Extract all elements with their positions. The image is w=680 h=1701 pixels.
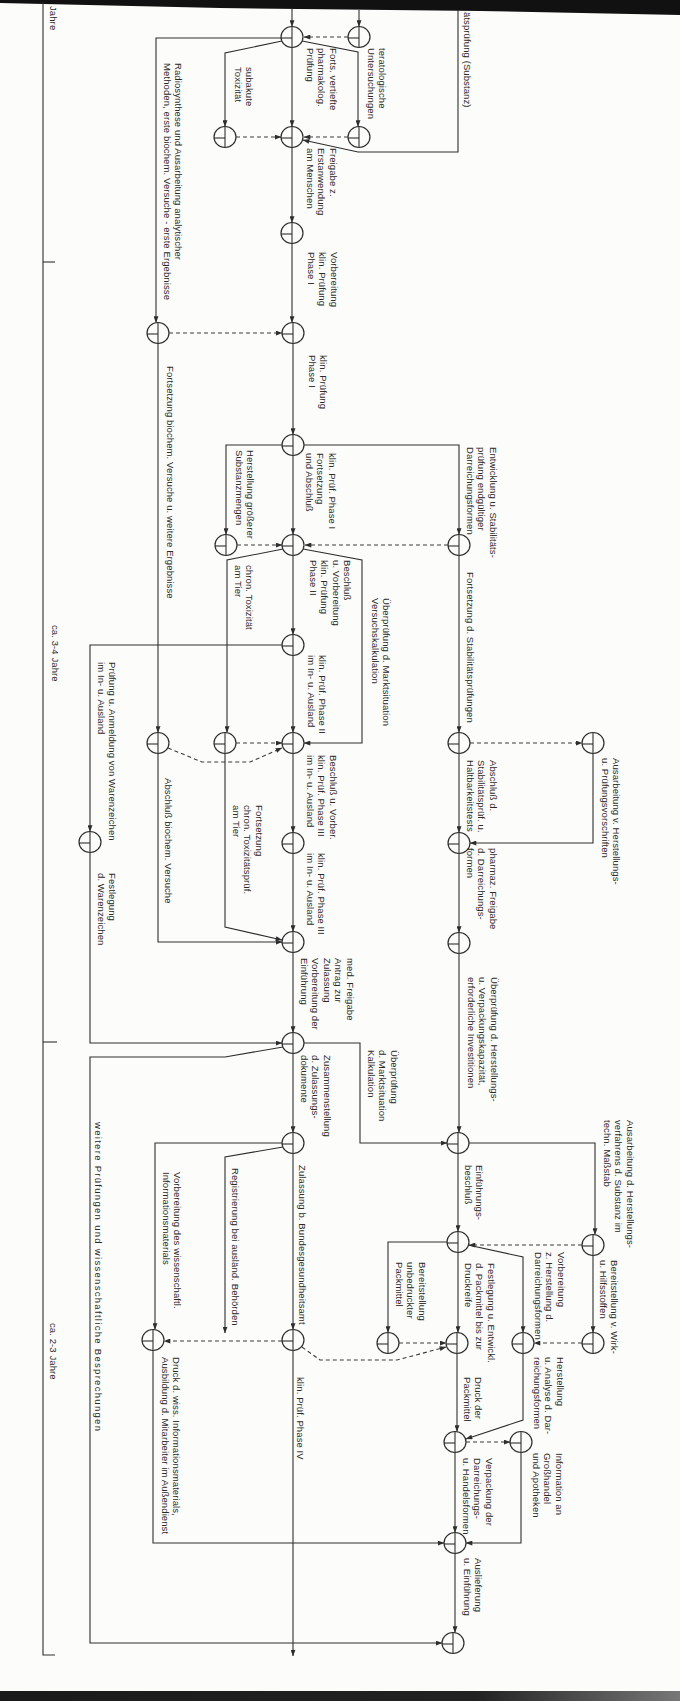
activity-label-unbedruckte-packmittel: Bereitstellung unbedruckter Packmittel [393,1262,428,1321]
activity-label-herstellungskapazitaet: Überprüfung d. Herstellungs- u. Verpacku… [465,977,500,1102]
activity-label-verpackung: Verpackung der Darreichungs- u. Handelsf… [460,1458,495,1535]
event-node [282,635,304,656]
event-node [281,27,303,48]
activity-label-radiosynthese: Radiosynthese und Ausarbeitung analytisc… [161,63,184,300]
activity-label-abschluss-stabilitaet: Abschluß d. Stabilitätsprüf. u. Haltbark… [464,760,499,833]
activity-label-marktsituation-versuchskalkulation: Überprüfung d. Marktsituation Versuchska… [369,598,392,726]
activity-label-beschluss-phase-3: Beschluß u. Vorber. klin. Prüf. Phase II… [304,755,339,840]
activity-label-phase-2: klin. Prüf. Phase II im In- u. Ausland [305,655,328,734]
event-node [282,435,304,456]
event-node [282,733,304,754]
activity-label-fortsetzung-biochem: Fortsetzung biochem. Versuche u. weitere… [164,366,176,599]
activity-label-analyse-darreichungsformen: Herstellung u. Analyse d. Dar- reichungs… [531,1357,566,1434]
activity-label-med-freigabe: med. Freigabe Antrag zur Zulassung Vorbe… [298,958,356,1030]
scan-edge-bottom [0,1691,680,1701]
activity-label-phase-1-abschluss: klin. Prüf. Phase I Fortsetzung und Absc… [303,453,338,529]
event-node [282,323,304,344]
activity-label-freigabe-erstanwendung: Freigabe z. Erstanwendung am Menschen [304,148,339,215]
event-node [377,1333,399,1354]
event-node [214,127,236,148]
scan-edge-top [0,0,680,15]
activity-label-pharmaz-freigabe: pharmaz. Freigabe d. Darreichungs- forme… [464,848,499,929]
activity-label-subakute-toxizitaet: subakute Toxizität [232,67,255,106]
activity-label-teratologische-untersuchungen: teratologische Untersuchungen [365,48,388,119]
activity-label-zulassung-bga: Zulassung b. Bundesgesundheitsamt [296,1165,308,1325]
activity-label-phase-3: klin. Prüf. Phase III im In- u. Ausland [304,853,327,935]
activity-label-packmittel-druckreife: Festlegung u. Entwickl. d. Packmittel bi… [462,1263,497,1363]
activity-label-pharmakolog-pruefung: Forts. vertiefte pharmakolog. Prüfung [304,48,339,110]
event-node [147,323,169,344]
activity-label-chron-toxizitaet: chron. Toxizität am Tier [232,565,255,630]
activity-label-anmeldung-warenzeichen: Prüfung u. Anmeldung von Warenzeichen im… [95,662,118,841]
activity-arrow [90,645,282,832]
activity-label-stabilitaetspruefung-substanz: ätsprüfung (Substanz) [461,12,473,108]
activity-label-klin-pruefung-phase-1: klin. Prüfung Phase I [306,355,329,409]
event-node [448,733,470,754]
event-node [281,127,303,148]
activity-label-einfuehrungsbeschluss: Einführungs- beschluß [462,1165,485,1220]
activity-label-druck-packmittel: Druck der Packmittel [461,1377,484,1422]
event-node [510,1432,532,1453]
event-node [444,1533,466,1554]
activity-label-beschluss-phase-2: Beschluß u. Vorbereitung klin. Prüfung P… [307,560,353,626]
event-node [282,535,304,556]
activity-label-herstellung-substanzmengen: Herstellung größerer Substanzmengen [233,450,256,539]
event-node [448,933,470,954]
dummy-arrow [302,1347,446,1360]
event-node [282,932,304,953]
event-node [582,733,604,754]
activity-arrow [469,1143,595,1235]
activity-label-vorbereitung-phase-1: Vorbereitung klin. Prüfung Phase I [305,252,340,307]
event-node [348,127,370,148]
event-node [214,733,236,754]
activity-label-wirk-hilfsstoffe: Bereitstellung v. Wirk- u. Hilfsstoffen [597,1260,620,1354]
event-node [282,1033,304,1054]
activity-label-pruefungsvorschriften: Ausarbeitung v. Herstellungs- u. Prüfung… [599,758,622,885]
activity-label-information-grosshandel: Information an Großhandel und Apotheken [530,1453,565,1518]
event-node [442,1633,464,1654]
activity-label-marktsituation-kalkulation: Überprüfung d. Marktsituation Kalkulatio… [365,1050,400,1121]
axis-period-label-2: ca. 2-3 Jahre [47,1323,59,1380]
activity-label-phase-4: klin. Prüf. Phase IV [294,1377,306,1460]
network-plan-page: Jahre ca. 3-4 Jahre ca. 2-3 Jahre ätsprü… [0,0,680,1701]
activity-label-druck-informationsmaterial: Druck d. wiss. Informationsmaterials, Au… [159,1357,182,1534]
event-node [142,1330,164,1351]
event-node [512,1333,534,1354]
activity-label-informationsmaterial: Vorbereitung des wissenschaftl. Informat… [160,1172,183,1309]
axis-period-label-1: ca. 3-4 Jahre [49,625,61,682]
activity-label-zulassungsdokumente: Zusammenstellung d. Zulassungs- dokument… [298,1055,333,1137]
event-node [447,1232,469,1253]
activity-label-fortsetzung-toxizitaet: Fortsetzung chron. Toxizitätsprüf. am Ti… [230,805,265,894]
activity-label-herstellungsverfahren: Ausarbeitung d. Herstellungs- verfahrens… [601,1120,636,1248]
event-node [147,733,169,754]
activity-label-fortsetzung-stabilitaet: Fortsetzung d. Stabilitätsprüfungen [464,572,476,723]
event-node [282,833,304,854]
event-node [447,1133,469,1154]
axis-unit-label: Jahre [47,6,59,30]
event-node [348,27,370,48]
activity-label-abschluss-biochem: Abschluß biochem. Versuche [162,778,174,904]
activity-label-auslieferung: Auslieferung u. Einführung [461,1558,484,1616]
network-diagram [0,0,680,1701]
activity-label-vorbereitung-darreichungsformen: Vorbereitung z. Herstellung d. Darreichu… [532,1252,567,1340]
activity-label-registrierung: Registrierung bei ausländ. Behörden [229,1168,241,1326]
event-node [444,1432,466,1453]
activity-label-entwicklung-stabilitaet: Entwicklung u. Stabilitäts- prüfung endg… [464,447,499,558]
event-node [282,1330,304,1351]
time-axis [43,2,57,1655]
activity-label-festlegung-warenzeichen: Festlegung d. Warenzeichen [95,873,118,945]
activity-label-weitere-pruefungen: weitere Prüfungen und wissenschaftliche … [92,1122,104,1432]
event-node [281,223,303,244]
